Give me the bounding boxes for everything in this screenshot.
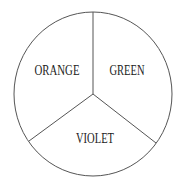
sector-label-green: GREEN xyxy=(110,62,145,78)
sector-label-violet: VIOLET xyxy=(76,130,114,146)
circle-diagram: ORANGE GREEN VIOLET xyxy=(0,0,183,188)
sector-label-orange: ORANGE xyxy=(35,62,80,78)
